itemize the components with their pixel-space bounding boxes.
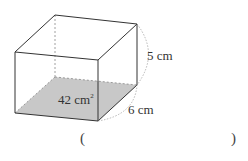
- edge: [15, 15, 55, 52]
- base-area-superscript: 2: [90, 92, 94, 100]
- answer-blank[interactable]: [92, 132, 228, 150]
- depth-label: 6 cm: [128, 102, 154, 117]
- base-area-value: 42 cm: [58, 92, 90, 107]
- edge: [98, 24, 137, 60]
- edge: [55, 15, 137, 24]
- base-area-label: 42 cm2: [58, 92, 94, 107]
- edge: [15, 52, 98, 60]
- height-label: 5 cm: [147, 48, 173, 63]
- answer-close-paren: ): [231, 130, 236, 147]
- answer-open-paren: (: [80, 130, 85, 147]
